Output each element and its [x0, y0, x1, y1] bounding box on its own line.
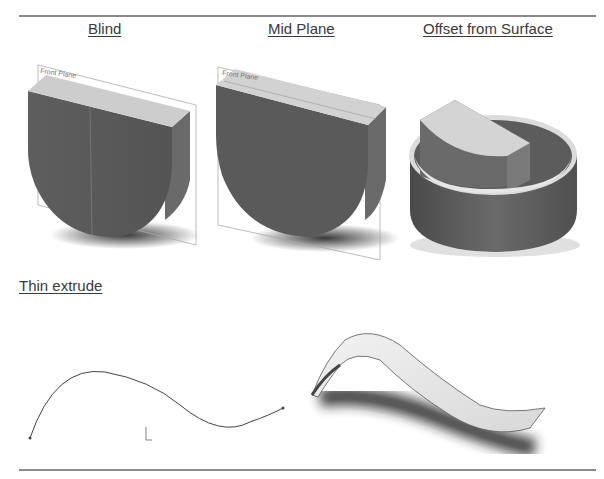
heading-mid-plane: Mid Plane [268, 20, 335, 37]
heading-offset-from-surface: Offset from Surface [423, 20, 553, 37]
thin-extrude-solid [290, 300, 590, 465]
origin-axis-icon [146, 427, 152, 440]
heading-thin-extrude: Thin extrude [19, 277, 102, 294]
top-divider [19, 15, 596, 17]
heading-blind: Blind [88, 20, 121, 37]
offset-from-surface-figure [395, 80, 600, 260]
mid-plane-extrude-figure: Front Plane [200, 55, 400, 260]
bottom-divider [19, 469, 596, 471]
thin-extrude-sketch [0, 360, 300, 450]
blind-extrude-figure: Front Plane [0, 55, 200, 260]
